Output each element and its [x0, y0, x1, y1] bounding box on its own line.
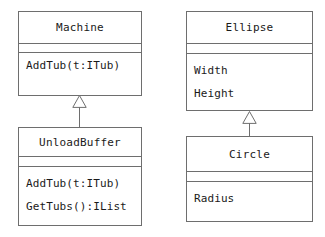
class-box-machine[interactable]: Machine AddTub(t:ITub) [18, 11, 142, 96]
class-attributes-compartment-ellipse: Width Height [187, 54, 312, 110]
class-empty-compartment-ellipse [187, 44, 312, 54]
generalization-unloadbuffer-to-machine [72, 95, 88, 127]
class-attribute: Height [194, 88, 312, 100]
class-attributes-compartment-machine [19, 44, 141, 53]
class-attributes-compartment-unloadbuffer [19, 157, 141, 167]
class-operations-compartment-unloadbuffer: AddTub(t:ITub) GetTubs():IList [19, 167, 141, 225]
class-operation: AddTub(t:ITub) [26, 60, 141, 72]
class-empty-compartment-circle [187, 172, 312, 182]
class-name-unloadbuffer: UnloadBuffer [19, 128, 141, 157]
class-attribute: Width [194, 65, 312, 77]
class-name-machine: Machine [19, 12, 141, 44]
class-box-unloadbuffer[interactable]: UnloadBuffer AddTub(t:ITub) GetTubs():IL… [18, 127, 142, 226]
generalization-line [79, 107, 80, 127]
class-box-ellipse[interactable]: Ellipse Width Height [186, 11, 313, 111]
generalization-circle-to-ellipse [242, 111, 258, 137]
class-box-circle[interactable]: Circle Radius [186, 136, 313, 222]
generalization-line [249, 123, 250, 137]
class-name-circle: Circle [187, 137, 312, 172]
class-name-ellipse: Ellipse [187, 12, 312, 44]
class-operation: GetTubs():IList [26, 201, 141, 213]
class-operation: AddTub(t:ITub) [26, 178, 141, 190]
class-attributes-compartment-circle: Radius [187, 182, 312, 221]
class-operations-compartment-machine: AddTub(t:ITub) [19, 53, 141, 95]
class-attribute: Radius [194, 193, 312, 205]
uml-class-diagram-canvas: Machine AddTub(t:ITub) UnloadBuffer AddT… [0, 0, 325, 237]
